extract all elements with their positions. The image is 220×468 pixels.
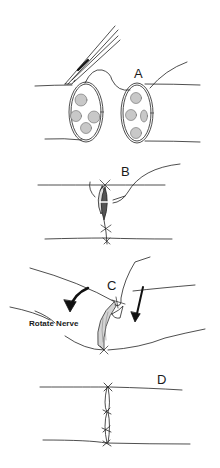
panel-b <box>38 164 180 244</box>
panel-label-d: D <box>157 373 166 386</box>
panel-label-a: A <box>134 67 143 80</box>
panel-c <box>10 257 205 354</box>
rotate-nerve-annotation: Rotate Nerve <box>29 320 78 328</box>
panel-label-c: C <box>107 279 116 292</box>
nerve-stump-right <box>121 83 153 143</box>
rotate-arrow-left-icon <box>64 288 88 312</box>
forceps-icon <box>65 26 120 84</box>
panel-label-b: B <box>121 165 130 178</box>
rotate-arrow-down-icon <box>131 287 143 322</box>
nerve-repair-illustration <box>0 0 220 468</box>
panel-d <box>40 383 190 446</box>
nerve-stump-left <box>69 82 103 142</box>
suture-knots <box>102 383 112 446</box>
panel-a <box>35 26 200 143</box>
suture-thread <box>85 70 130 91</box>
rotated-nerve-end <box>98 302 116 350</box>
